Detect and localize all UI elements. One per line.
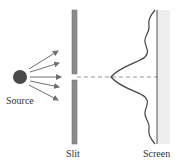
diffraction-diagram: Source Slit Screen <box>0 0 182 163</box>
screen-label: Screen <box>143 148 170 159</box>
slit-barrier-top <box>72 10 77 74</box>
ray-arrow <box>30 63 59 72</box>
ray-arrows <box>29 51 61 100</box>
ray-arrow <box>30 81 59 87</box>
source-label: Source <box>6 95 34 106</box>
ray-arrow <box>29 51 58 69</box>
slit-barrier-bottom <box>72 80 77 144</box>
slit-label: Slit <box>66 148 80 159</box>
screen-shade <box>157 10 170 144</box>
light-source <box>13 70 27 84</box>
